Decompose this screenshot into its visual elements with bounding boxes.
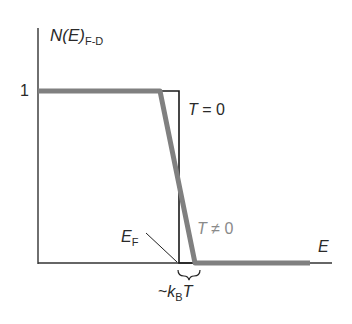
t-nonzero-curve [38,91,310,263]
y-axis-label: N(E)F-D [50,26,103,47]
t-nonzero-label: T ≠ 0 [197,220,233,238]
fermi-energy-label: EF [121,228,138,248]
fermi-pointer-line [146,233,177,262]
thermal-width-label: ~kBT [158,283,192,303]
fermi-dirac-plot [0,0,352,324]
y-tick-one: 1 [20,82,29,100]
t-zero-label: T = 0 [188,101,225,119]
width-brace [178,270,200,280]
x-axis-label: E [318,238,329,256]
